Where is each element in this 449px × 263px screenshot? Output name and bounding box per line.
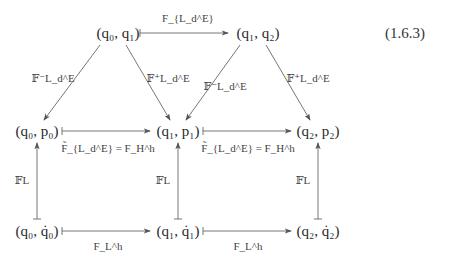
node-q0-q0dot: (q₀, q̇₀) xyxy=(16,224,59,239)
arrow-layer xyxy=(0,0,449,263)
label-fminus-left: 𝔽⁻L_d^E xyxy=(31,73,74,84)
label-fminus-right: 𝔽⁻L_d^E xyxy=(203,81,246,92)
node-q2-q2dot: (q₂, q̇₂) xyxy=(297,224,340,239)
label-legendre-3: 𝔽L xyxy=(296,175,311,186)
label-fplus-right: 𝔽⁺L_d^E xyxy=(286,73,329,84)
label-bottom-map-1: F_L^h xyxy=(94,241,123,252)
label-legendre-2: 𝔽L xyxy=(156,175,171,186)
node-q1-p1: (q₁, p₁) xyxy=(157,124,200,139)
label-mid-map-2: F̃_{L_d^E} = F_H^h xyxy=(201,143,295,154)
equation-number: (1.6.3) xyxy=(385,25,425,42)
node-q1-q2: (q₁, q₂) xyxy=(237,26,280,41)
node-q1-q1dot: (q₁, q̇₁) xyxy=(157,224,200,239)
label-mid-map-1: F̃_{L_d^E} = F_H^h xyxy=(61,143,155,154)
label-bottom-map-2: F_L^h xyxy=(234,241,263,252)
node-q0-q1: (q₀, q₁) xyxy=(97,26,140,41)
label-legendre-1: 𝔽L xyxy=(15,175,30,186)
label-top-map: F_{L_d^E} xyxy=(162,13,214,24)
node-q2-p2: (q₂, p₂) xyxy=(297,124,340,139)
label-fplus-left: 𝔽⁺L_d^E xyxy=(146,73,189,84)
node-q0-p0: (q₀, p₀) xyxy=(16,124,59,139)
